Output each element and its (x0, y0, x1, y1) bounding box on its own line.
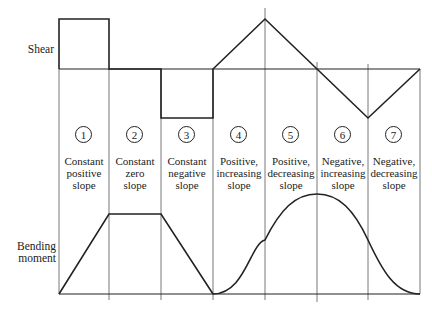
desc-line: Negative, (317, 155, 369, 167)
region-description-3: Constant negative slope (161, 155, 213, 191)
desc-line: Constant (161, 155, 213, 167)
desc-line: Constant (58, 155, 110, 167)
region-description-7: Negative, decreasing slope (368, 155, 420, 191)
shear-label: Shear (10, 43, 54, 55)
desc-line: slope (213, 179, 265, 191)
region-description-4: Positive, increasing slope (213, 155, 265, 191)
desc-line: Positive, (265, 155, 317, 167)
region-number-2: 2 (126, 126, 143, 143)
region-number-1: 1 (75, 126, 92, 143)
desc-line: positive (58, 167, 110, 179)
region-description-1: Constant positive slope (58, 155, 110, 191)
desc-line: Negative, (368, 155, 420, 167)
desc-line: slope (265, 179, 317, 191)
region-description-2: Constant zero slope (109, 155, 161, 191)
desc-line: increasing (213, 167, 265, 179)
region-number-7: 7 (385, 126, 402, 143)
desc-line: Constant (109, 155, 161, 167)
moment-bell-curve (213, 194, 420, 294)
desc-line: decreasing (368, 167, 420, 179)
region-number-5: 5 (282, 126, 299, 143)
desc-line: increasing (317, 167, 369, 179)
region-number-4: 4 (230, 126, 247, 143)
desc-line: Positive, (213, 155, 265, 167)
desc-line: slope (368, 179, 420, 191)
desc-line: slope (161, 179, 213, 191)
region-number-6: 6 (334, 126, 351, 143)
bending-moment-label-line2: moment (4, 252, 56, 264)
desc-line: zero (109, 167, 161, 179)
desc-line: slope (58, 179, 110, 191)
region-description-5: Positive, decreasing slope (265, 155, 317, 191)
desc-line: decreasing (265, 167, 317, 179)
moment-linear-part (59, 214, 213, 294)
region-number-3: 3 (178, 126, 195, 143)
bending-moment-label-line1: Bending (4, 240, 56, 252)
region-description-6: Negative, increasing slope (317, 155, 369, 191)
desc-line: slope (317, 179, 369, 191)
desc-line: negative (161, 167, 213, 179)
desc-line: slope (109, 179, 161, 191)
